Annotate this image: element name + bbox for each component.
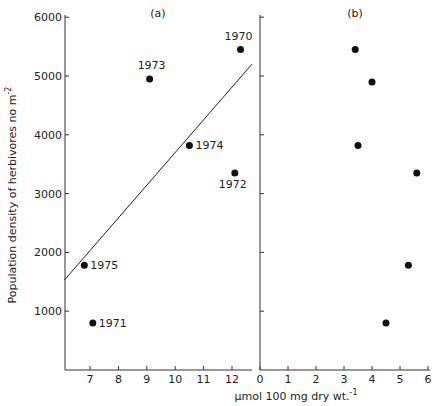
y-tick-label: 3000 xyxy=(34,188,62,201)
x-tick-label: 4 xyxy=(369,373,376,386)
y-tick-label: 2000 xyxy=(34,246,62,259)
data-point xyxy=(237,46,244,53)
data-point xyxy=(413,170,420,177)
x-tick-label: 11 xyxy=(197,373,211,386)
y-tick-label: 1000 xyxy=(34,305,62,318)
data-point xyxy=(146,75,153,82)
panel-b-label: (b) xyxy=(347,7,363,20)
x-tick-label: 5 xyxy=(397,373,404,386)
point-label: 1975 xyxy=(90,259,118,272)
data-point xyxy=(186,142,193,149)
x-tick-label: 1 xyxy=(285,373,292,386)
data-point xyxy=(383,319,390,326)
x-axis-label-text: µmol 100 mg dry wt. xyxy=(235,390,350,403)
data-point xyxy=(231,170,238,177)
y-axis-label-sup: -2 xyxy=(4,87,13,95)
point-label: 1971 xyxy=(99,317,127,330)
x-tick-label: 3 xyxy=(341,373,348,386)
y-axis-label: Population density of herbivores no m-2 xyxy=(4,87,19,304)
regression-line xyxy=(64,64,251,280)
x-tick-label: 9 xyxy=(143,373,150,386)
data-point xyxy=(369,78,376,85)
x-tick-label: 2 xyxy=(313,373,320,386)
data-point xyxy=(355,142,362,149)
point-label: 1973 xyxy=(138,59,166,72)
panel-a: 1000200030004000500060007891011121970197… xyxy=(34,11,253,386)
herbivore-density-chart: 1000200030004000500060007891011121970197… xyxy=(0,0,438,406)
x-tick-label: 7 xyxy=(87,373,94,386)
x-tick-label: 10 xyxy=(168,373,182,386)
point-label: 1974 xyxy=(195,139,223,152)
y-tick-label: 4000 xyxy=(34,129,62,142)
x-tick-label: 12 xyxy=(225,373,239,386)
x-axis-label-sup: -1 xyxy=(350,388,358,397)
y-tick-label: 6000 xyxy=(34,11,62,24)
panel-b: 0123456 xyxy=(257,15,432,386)
x-tick-label: 8 xyxy=(115,373,122,386)
data-point xyxy=(81,262,88,269)
point-label: 1970 xyxy=(225,30,253,43)
panel-a-label: (a) xyxy=(150,7,165,20)
point-label: 1972 xyxy=(219,178,247,191)
data-point xyxy=(89,319,96,326)
y-axis-label-text: Population density of herbivores no m xyxy=(6,95,19,304)
x-axis-label: µmol 100 mg dry wt.-1 xyxy=(235,388,358,403)
y-tick-label: 5000 xyxy=(34,70,62,83)
x-tick-label: 0 xyxy=(257,373,264,386)
data-point xyxy=(352,46,359,53)
x-tick-label: 6 xyxy=(425,373,432,386)
data-point xyxy=(405,262,412,269)
